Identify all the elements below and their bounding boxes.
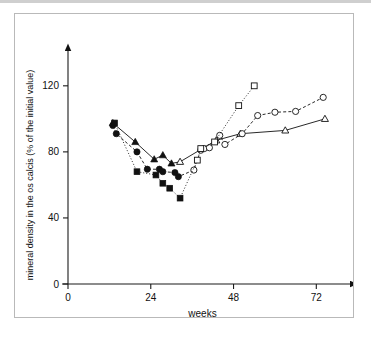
point-circle-open	[293, 108, 299, 114]
point-circle-open	[255, 112, 261, 118]
point-square-filled	[153, 172, 159, 178]
figure-frame: 040801200244872weeksmineral density in t…	[14, 13, 354, 318]
point-circle-open	[239, 131, 245, 137]
point-triangle-open	[177, 158, 184, 164]
x-tick-label: 0	[65, 292, 71, 303]
point-circle-open	[272, 109, 278, 115]
point-circle-filled	[160, 169, 166, 175]
point-square-filled	[112, 120, 118, 126]
point-square-filled	[167, 185, 173, 191]
point-circle-open	[222, 141, 228, 147]
y-tick-label: 80	[48, 146, 60, 157]
point-square-open	[236, 103, 242, 109]
point-circle-open	[191, 167, 197, 173]
chart-plot: 040801200244872weeksmineral density in t…	[15, 14, 353, 317]
x-tick-label: 24	[145, 292, 157, 303]
top-rule	[0, 0, 371, 3]
point-square-filled	[160, 180, 166, 186]
x-tick-label: 72	[311, 292, 323, 303]
point-circle-filled	[175, 174, 181, 180]
point-square-open	[212, 139, 218, 145]
point-triangle-open	[321, 115, 328, 121]
series-circle	[110, 94, 327, 179]
point-circle-filled	[144, 166, 150, 172]
point-square-open	[251, 83, 257, 89]
point-square-filled	[134, 169, 140, 175]
point-triangle-filled	[159, 152, 166, 158]
point-circle-open	[206, 145, 212, 151]
point-circle-filled	[134, 149, 140, 155]
point-triangle-filled	[132, 138, 139, 144]
series-triangle	[109, 115, 328, 166]
y-axis-title: mineral density in the os calcis (% of t…	[25, 70, 35, 281]
point-square-open	[194, 157, 200, 163]
point-square-filled	[177, 195, 183, 201]
y-tick-label: 120	[42, 80, 59, 91]
x-axis-title: weeks	[187, 308, 216, 317]
point-square-open	[198, 146, 204, 152]
point-circle-open	[320, 94, 326, 100]
y-tick-label: 40	[48, 212, 60, 223]
y-tick-label: 0	[53, 279, 59, 290]
x-tick-label: 48	[228, 292, 240, 303]
